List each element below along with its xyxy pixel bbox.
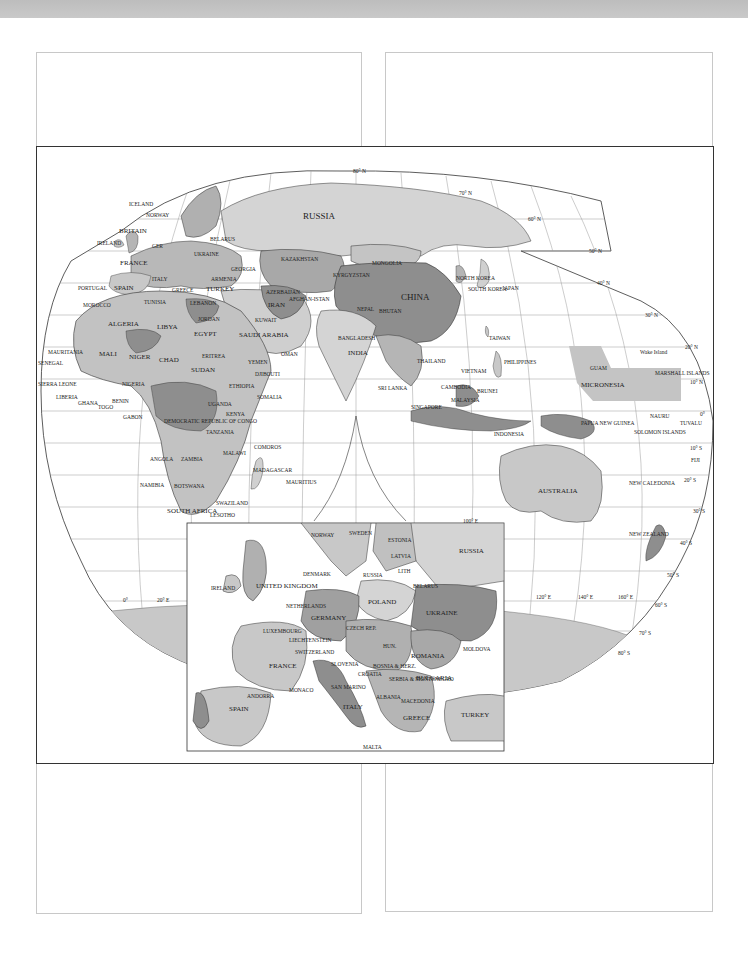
label-saudi-arabia: SAUDI ARABIA — [239, 331, 289, 339]
label-marshall-islands: MARSHALL ISLANDS — [655, 370, 710, 376]
label-cambodia: CAMBODIA — [441, 384, 471, 390]
label-spain: SPAIN — [114, 284, 134, 292]
inset-label-lithuania: LITH — [398, 568, 411, 574]
label-tuvalu: TUVALU — [680, 420, 702, 426]
label-russia: RUSSIA — [303, 211, 336, 221]
label-brunei: BRUNEI — [477, 388, 498, 394]
inset-label-san-marino: SAN MARINO — [331, 684, 366, 690]
label-kyrgyzstan: KYRGYZSTAN — [333, 272, 370, 278]
lat-label-30n: 30° N — [645, 312, 658, 318]
label-france: FRANCE — [120, 259, 148, 267]
inset-label-russia: RUSSIA — [459, 547, 484, 555]
label-kazakhstan: KAZAKHSTAN — [281, 256, 318, 262]
label-germany-abbr: GER — [152, 243, 163, 249]
label-nepal: NEPAL — [357, 306, 375, 312]
label-japan: JAPAN — [502, 285, 519, 291]
label-botswana: BOTSWANA — [174, 483, 205, 489]
label-ireland: IRELAND — [97, 240, 121, 246]
lat-label-70n: 70° N — [459, 190, 472, 196]
label-nauru: NAURU — [650, 413, 670, 419]
label-malaysia: MALAYSIA — [451, 397, 480, 403]
label-turkey: TURKEY — [206, 285, 234, 293]
label-liberia: LIBERIA — [56, 394, 78, 400]
label-italy: ITALY — [152, 276, 168, 282]
label-lesotho: LESOTHO — [210, 512, 235, 518]
label-india: INDIA — [348, 349, 368, 357]
label-papua-new-guinea: PAPUA NEW GUINEA — [581, 420, 635, 426]
inset-label-bosnia: BOSNIA & HERZ. — [373, 663, 417, 669]
label-sierra-leone: SIERRA LEONE — [38, 381, 77, 387]
inset-label-greece: GREECE — [403, 714, 430, 722]
label-kuwait: KUWAIT — [255, 317, 277, 323]
label-taiwan: TAIWAN — [489, 335, 510, 341]
label-philippines: PHILIPPINES — [504, 359, 536, 365]
label-ukraine: UKRAINE — [194, 251, 219, 257]
lat-label-50s: 50° S — [667, 572, 679, 578]
lon-label-120e: 120° E — [536, 594, 552, 600]
lat-label-80s: 80° S — [618, 650, 630, 656]
label-drc: DEMOCRATIC REPUBLIC OF CONGO — [164, 418, 257, 424]
label-libya: LIBYA — [157, 323, 178, 331]
label-azerbaijan: AZERBAIJAN — [266, 289, 300, 295]
scan-edge-bar — [0, 0, 748, 18]
label-iran: IRAN — [268, 301, 285, 309]
empty-panel-bottom-left — [36, 762, 362, 914]
label-chad: CHAD — [159, 356, 179, 364]
inset-label-germany: GERMANY — [311, 614, 346, 622]
label-mauritius: MAURITIUS — [286, 479, 317, 485]
lat-label-80n: 80° N — [353, 168, 366, 174]
europe-inset: NORWAY SWEDEN ESTONIA LATVIA LITH RUSSIA… — [187, 523, 504, 751]
inset-label-sweden: SWEDEN — [349, 530, 372, 536]
label-thailand: THAILAND — [417, 358, 445, 364]
label-norway: NORWAY — [146, 212, 169, 218]
label-madagascar: MADAGASCAR — [253, 467, 292, 473]
label-indonesia: INDONESIA — [494, 431, 524, 437]
inset-label-belarus: BELARUS — [413, 583, 438, 589]
inset-label-andorra: ANDORRA — [247, 693, 274, 699]
label-somalia: SOMALIA — [257, 394, 282, 400]
empty-panel-top-right — [385, 52, 713, 148]
label-egypt: EGYPT — [194, 330, 217, 338]
lat-label-40n: 40° N — [597, 280, 610, 286]
label-malawi: MALAWI — [223, 450, 246, 456]
inset-label-estonia: ESTONIA — [388, 537, 411, 543]
lat-label-10n: 10° N — [690, 379, 703, 385]
label-australia: AUSTRALIA — [538, 487, 578, 495]
label-kenya: KENYA — [226, 411, 245, 417]
label-oman: OMAN — [281, 351, 298, 357]
inset-label-croatia: CROATIA — [358, 671, 382, 677]
world-map-frame: 80° N 70° N 60° N 50° N 40° N 30° N 20° … — [36, 146, 714, 764]
label-swaziland: SWAZILAND — [216, 500, 248, 506]
lat-label-40s: 40° S — [680, 540, 692, 546]
label-comoros: COMOROS — [254, 444, 281, 450]
label-yemen: YEMEN — [248, 359, 268, 365]
label-morocco: MOROCCO — [83, 302, 111, 308]
label-sri-lanka: SRI LANKA — [378, 385, 407, 391]
label-georgia: GEORGIA — [231, 266, 256, 272]
label-bhutan: BHUTAN — [379, 308, 402, 314]
label-zambia: ZAMBIA — [181, 456, 203, 462]
lat-label-0: 0° — [700, 411, 705, 417]
label-afghanistan: AFGHAN-ISTAN — [289, 296, 330, 302]
label-vietnam: VIETNAM — [461, 368, 486, 374]
lat-label-50n: 50° N — [589, 248, 602, 254]
label-singapore: SINGAPORE — [411, 404, 443, 410]
label-solomon-islands: SOLOMON ISLANDS — [634, 429, 686, 435]
label-wake-island: Wake Island — [640, 349, 667, 355]
inset-label-macedonia: MACEDONIA — [401, 698, 435, 704]
label-lebanon: LEBANON — [190, 300, 216, 306]
lon-label-140e: 140° E — [578, 594, 594, 600]
label-guam: GUAM — [590, 365, 607, 371]
label-niger: NIGER — [129, 353, 151, 361]
label-fiji: FIJI — [691, 457, 700, 463]
inset-label-ukraine: UKRAINE — [426, 609, 458, 617]
label-north-korea: NORTH KOREA — [456, 275, 495, 281]
label-nigeria: NIGERIA — [122, 381, 145, 387]
label-senegal: SENEGAL — [38, 360, 64, 366]
lon-label-0: 0° — [123, 597, 128, 603]
label-benin: BENIN — [112, 398, 129, 404]
label-iceland: ICELAND — [129, 201, 153, 207]
inset-label-switzerland: SWITZERLAND — [295, 649, 334, 655]
label-namibia: NAMIBIA — [140, 482, 164, 488]
lat-label-60s: 60° S — [655, 602, 667, 608]
